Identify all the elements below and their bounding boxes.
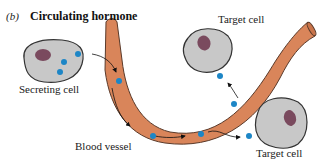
secreting-cell (24, 40, 83, 83)
hormone-dot (116, 78, 122, 84)
hormone-dot (61, 59, 67, 65)
hormone-dot (57, 69, 63, 75)
hormone-dot (75, 51, 81, 57)
hormone-dot (231, 101, 237, 107)
hormone-dot (198, 131, 204, 137)
nucleus (35, 49, 51, 61)
target-cell-top (184, 29, 233, 73)
target-cell-bottom (255, 98, 307, 148)
hormone-dot (150, 133, 156, 139)
hormone-dot (246, 133, 252, 139)
blood-vessel-label: Blood vessel (75, 141, 132, 152)
secreting-cell-label: Secreting cell (19, 84, 79, 95)
circulating-hormone-diagram (0, 0, 319, 163)
target-cell-top-label: Target cell (218, 14, 264, 25)
exit-arrow-top (228, 83, 238, 98)
target-cell-bottom-label: Target cell (256, 148, 302, 159)
figure-title: Circulating hormone (30, 10, 137, 22)
hormone-dot (217, 73, 223, 79)
panel-label: (b) (6, 11, 19, 22)
